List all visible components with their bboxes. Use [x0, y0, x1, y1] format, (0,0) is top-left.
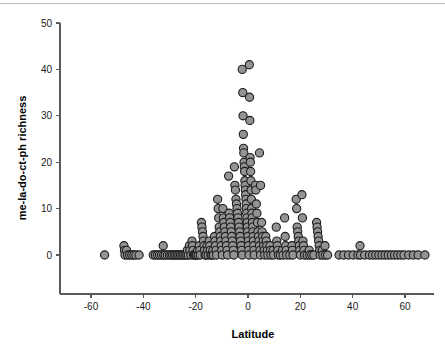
data-point	[214, 195, 222, 203]
x-tick-label: -20	[188, 301, 203, 312]
data-point	[293, 205, 301, 213]
data-point	[225, 172, 233, 180]
x-tick-label: 60	[399, 301, 411, 312]
data-point	[281, 232, 289, 240]
y-tick-label: 10	[41, 203, 53, 214]
data-point	[245, 93, 253, 101]
data-point	[256, 181, 264, 189]
data-point	[281, 214, 289, 222]
x-axis-ticks: -60-40-200204060	[84, 294, 411, 312]
data-point	[323, 251, 331, 259]
y-tick-label: 30	[41, 110, 53, 121]
data-point	[258, 218, 266, 226]
data-point	[356, 242, 364, 250]
x-tick-label: 40	[347, 301, 359, 312]
y-tick-label: 40	[41, 64, 53, 75]
data-point	[231, 186, 239, 194]
x-tick-label: 20	[295, 301, 307, 312]
data-point	[230, 163, 238, 171]
data-point	[298, 214, 306, 222]
y-axis-title: me-la-do-ct-ph richness	[16, 96, 28, 221]
data-points-group	[100, 61, 429, 259]
data-point	[321, 242, 329, 250]
y-tick-label: 20	[41, 157, 53, 168]
data-point	[245, 61, 253, 69]
data-point	[230, 251, 238, 259]
data-point	[252, 200, 260, 208]
data-point	[159, 242, 167, 250]
chart-canvas: 01020304050 -60-40-200204060 Latitude me…	[0, 0, 445, 352]
data-point	[247, 167, 255, 175]
x-tick-label: -40	[136, 301, 151, 312]
data-point	[135, 251, 143, 259]
x-tick-label: 0	[245, 301, 251, 312]
data-point	[298, 191, 306, 199]
x-axis-title: Latitude	[232, 328, 275, 340]
data-point	[100, 251, 108, 259]
y-tick-label: 0	[46, 250, 52, 261]
data-point	[421, 251, 429, 259]
scatter-plot-figure: 01020304050 -60-40-200204060 Latitude me…	[0, 0, 445, 352]
data-point	[272, 223, 280, 231]
data-point	[253, 209, 261, 217]
x-tick-label: -60	[84, 301, 99, 312]
data-point	[246, 158, 254, 166]
y-axis-ticks: 01020304050	[41, 18, 60, 261]
data-point	[246, 116, 254, 124]
data-point	[255, 149, 263, 157]
y-tick-label: 50	[41, 18, 53, 29]
data-point	[239, 130, 247, 138]
